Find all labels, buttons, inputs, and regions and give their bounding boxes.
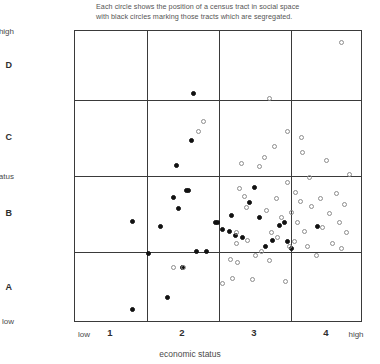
data-point-not-segregated: [237, 186, 242, 191]
data-point-segregated: [247, 200, 252, 205]
data-point-not-segregated: [302, 229, 307, 234]
data-point-not-segregated: [274, 196, 279, 201]
scatter-figure: Each circle shows the position of a cens…: [0, 0, 380, 364]
data-point-not-segregated: [342, 202, 347, 207]
data-point-not-segregated: [171, 265, 176, 270]
data-point-not-segregated: [272, 144, 277, 149]
data-point-not-segregated: [259, 249, 264, 254]
y-band-label-a: A: [6, 282, 13, 292]
data-point-not-segregated: [324, 158, 329, 163]
data-point-not-segregated: [305, 244, 310, 249]
data-point-not-segregated: [285, 129, 290, 134]
x-axis-title: economic status: [0, 349, 380, 359]
data-point-not-segregated: [293, 190, 298, 195]
x-axis-low-label: low: [78, 330, 90, 339]
gridline-horizontal-cb: [75, 176, 361, 177]
data-point-not-segregated: [234, 241, 239, 246]
data-point-not-segregated: [220, 281, 225, 286]
data-point-segregated: [171, 195, 176, 200]
data-point-segregated: [257, 215, 262, 220]
data-point-segregated: [204, 249, 209, 254]
data-point-not-segregated: [262, 155, 267, 160]
data-point-not-segregated: [295, 220, 300, 225]
data-point-segregated: [229, 213, 234, 218]
y-band-label-c: C: [6, 132, 13, 142]
data-point-segregated: [220, 227, 225, 232]
data-point-not-segregated: [347, 172, 352, 177]
data-point-not-segregated: [299, 135, 304, 140]
caption-line-1: Each circle shows the position of a cens…: [96, 2, 332, 12]
data-point-not-segregated: [289, 210, 294, 215]
data-point-not-segregated: [230, 276, 235, 281]
data-point-not-segregated: [250, 277, 255, 282]
data-point-not-segregated: [267, 258, 272, 263]
data-point-not-segregated: [327, 211, 332, 216]
data-point-not-segregated: [285, 180, 290, 185]
data-point-segregated: [282, 220, 287, 225]
data-point-segregated: [130, 307, 135, 312]
data-point-not-segregated: [337, 220, 342, 225]
data-point-segregated: [252, 185, 257, 190]
data-point-not-segregated: [228, 257, 233, 262]
data-point-segregated: [174, 163, 179, 168]
y-axis-title: family status: [0, 172, 14, 181]
data-point-not-segregated: [309, 204, 314, 209]
data-point-not-segregated: [275, 235, 280, 240]
data-point-not-segregated: [245, 238, 250, 243]
data-point-not-segregated: [283, 279, 288, 284]
data-point-not-segregated: [307, 175, 312, 180]
y-band-label-d: D: [6, 60, 13, 70]
gridline-horizontal-dc: [75, 100, 361, 101]
data-point-segregated: [158, 224, 163, 229]
data-point-segregated: [165, 295, 170, 300]
data-point-not-segregated: [314, 253, 319, 258]
data-point-not-segregated: [300, 150, 305, 155]
data-point-not-segregated: [344, 230, 349, 235]
data-point-segregated: [146, 251, 151, 256]
data-point-not-segregated: [287, 244, 292, 249]
data-point-not-segregated: [253, 253, 258, 258]
data-point-not-segregated: [196, 129, 201, 134]
data-point-not-segregated: [269, 230, 274, 235]
x-tick-2: 2: [179, 327, 184, 338]
data-point-not-segregated: [320, 225, 325, 230]
data-point-segregated: [189, 138, 194, 143]
data-point-not-segregated: [235, 260, 240, 265]
data-point-segregated: [263, 244, 268, 249]
data-point-not-segregated: [244, 205, 249, 210]
data-point-not-segregated: [330, 241, 335, 246]
data-point-not-segregated: [239, 161, 244, 166]
x-axis-high-label: high: [348, 330, 363, 339]
data-point-segregated: [277, 223, 282, 228]
data-point-not-segregated: [339, 40, 344, 45]
x-tick-3: 3: [251, 327, 256, 338]
data-point-not-segregated: [264, 208, 269, 213]
data-point-segregated: [186, 188, 191, 193]
data-point-not-segregated: [181, 265, 186, 270]
x-tick-1: 1: [107, 327, 112, 338]
data-point-segregated: [176, 206, 181, 211]
data-point-not-segregated: [242, 194, 247, 199]
data-point-not-segregated: [339, 246, 344, 251]
data-point-segregated: [194, 249, 199, 254]
data-point-not-segregated: [334, 191, 339, 196]
data-point-not-segregated: [267, 96, 272, 101]
data-point-segregated: [227, 229, 232, 234]
caption-line-2: with black circles marking those tracts …: [96, 12, 332, 22]
data-point-not-segregated: [257, 164, 262, 169]
data-point-not-segregated: [292, 239, 297, 244]
data-point-not-segregated: [298, 199, 303, 204]
data-point-segregated: [130, 219, 135, 224]
y-axis-low-label: low: [2, 317, 14, 326]
y-axis-high-label: high: [0, 27, 14, 36]
data-point-not-segregated: [201, 119, 206, 124]
data-point-segregated: [191, 91, 196, 96]
y-band-label-b: B: [6, 208, 13, 218]
plot-area: [74, 30, 362, 322]
data-point-not-segregated: [318, 196, 323, 201]
figure-caption: Each circle shows the position of a cens…: [96, 2, 332, 21]
data-point-not-segregated: [234, 230, 239, 235]
x-tick-4: 4: [323, 327, 328, 338]
